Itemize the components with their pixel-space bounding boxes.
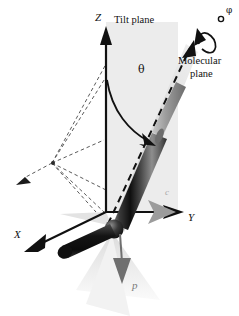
z-axis-label: Z: [95, 12, 101, 24]
c-director-label: c: [165, 188, 169, 197]
x-axis-label: X: [14, 229, 21, 241]
x-axis-arrowhead: [24, 234, 46, 252]
y-axis-label: Y: [188, 212, 194, 224]
dashed-projection-arrowhead: [16, 177, 31, 185]
p-vector-label: p: [132, 280, 138, 292]
phi-rotation-arrowhead: [194, 28, 206, 46]
theta-angle-label: θ: [138, 64, 145, 76]
phi-marker-dot: [218, 16, 223, 21]
molecular-plane-label-line2: plane: [190, 68, 213, 79]
molecular-plane-label-line1: Molecular: [178, 55, 221, 66]
tilt-plane-label: Tilt plane: [114, 14, 154, 25]
dashed-vertex-dot: [51, 161, 55, 165]
dashed-projection-lines: [24, 64, 106, 212]
phi-angle-label: φ: [226, 6, 232, 15]
molecular-tilt-diagram: [0, 0, 239, 316]
molecular-plane-lower-wedge: [60, 212, 112, 226]
figure-root: Z Y X Tilt plane Molecular plane θ φ p c: [0, 0, 239, 316]
